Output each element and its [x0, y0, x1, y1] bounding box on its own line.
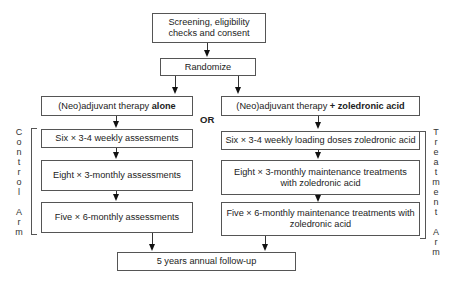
follow-up-box: 5 years annual follow-up — [117, 252, 296, 271]
arrow-down-icon — [172, 87, 178, 94]
control-step-3: Five × 6-monthly assessments — [41, 202, 193, 233]
control-step-1: Six × 3-4 weekly assessments — [41, 129, 193, 148]
arrow-down-icon — [315, 152, 321, 159]
arrow-down-icon — [113, 194, 119, 201]
control-arm-bracket — [31, 128, 37, 235]
control-step-2: Eight × 3-monthly assessments — [41, 160, 193, 191]
treatment-therapy-box: (Neo)adjuvant therapy + zoledronic acid — [221, 96, 420, 116]
arrow-down-icon — [235, 87, 241, 94]
treatment-arm-bracket — [420, 131, 426, 239]
arrow-down-icon — [262, 244, 268, 251]
arrow-down-icon — [315, 195, 321, 202]
arrow-down-icon — [315, 122, 321, 129]
treatment-step-2: Eight × 3-monthly maintenance treatments… — [221, 160, 420, 195]
treatment-step-1: Six × 3-4 weekly loading doses zoledroni… — [221, 131, 420, 150]
control-therapy-label: (Neo)adjuvant therapy alone — [58, 101, 175, 112]
randomize-box: Randomize — [160, 58, 256, 76]
randomize-label: Randomize — [185, 62, 231, 73]
control-therapy-box: (Neo)adjuvant therapy alone — [41, 96, 193, 116]
treatment-therapy-label: (Neo)adjuvant therapy + zoledronic acid — [236, 101, 404, 112]
or-label: OR — [200, 114, 214, 125]
arrow-down-icon — [113, 152, 119, 159]
control-arm-label: C o n t r o l A r m — [14, 127, 24, 237]
arrow-down-icon — [204, 50, 210, 57]
screening-label: Screening, eligibility checks and consen… — [156, 17, 262, 39]
screening-box: Screening, eligibility checks and consen… — [152, 13, 266, 43]
arrow-down-icon — [149, 244, 155, 251]
treatment-step-3: Five × 6-monthly maintenance treatments … — [221, 202, 420, 236]
treatment-arm-label: T r e a t m e n t A r m — [431, 127, 441, 257]
arrow-down-icon — [113, 121, 119, 128]
